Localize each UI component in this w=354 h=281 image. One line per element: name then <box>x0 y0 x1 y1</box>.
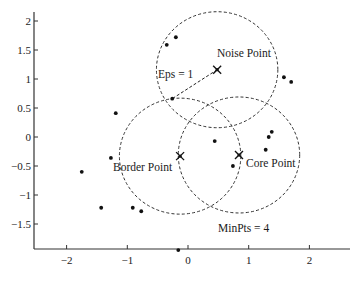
y-tick-label: −0.5 <box>11 160 31 172</box>
y-tick-label: 2 <box>26 15 32 27</box>
axes: −2−1012 21.510.50−0.5−1−1.5 <box>11 12 350 266</box>
border-point-label: Border Point <box>113 161 173 173</box>
data-point <box>264 148 268 152</box>
x-marker-noise <box>213 66 221 74</box>
data-point <box>231 164 235 168</box>
y-tick-label: 0 <box>26 131 32 143</box>
x-tick-label: 0 <box>185 254 191 266</box>
x-marker-border <box>176 152 184 160</box>
core-point-label: Core Point <box>246 157 296 169</box>
eps-circles <box>119 12 299 214</box>
dbscan-diagram: −2−1012 21.510.50−0.5−1−1.5 Eps = 1 Nois… <box>0 0 354 281</box>
data-point <box>270 130 274 134</box>
x-marker-core <box>235 151 243 159</box>
y-tick-label: −1 <box>19 189 31 201</box>
data-point <box>267 135 271 139</box>
data-point <box>170 97 174 101</box>
y-tick-label: 1.5 <box>17 44 31 56</box>
data-point <box>165 43 169 47</box>
x-tick-label: 1 <box>246 254 252 266</box>
data-point <box>289 80 293 84</box>
data-point <box>99 206 103 210</box>
data-point <box>213 139 217 143</box>
y-tick-label: 0.5 <box>17 102 31 114</box>
data-point <box>114 111 118 115</box>
x-ticks: −2−1012 <box>61 245 312 266</box>
eps-label: Eps = 1 <box>158 68 193 81</box>
y-tick-label: 1 <box>26 73 32 85</box>
minpts-label: MinPts = 4 <box>218 222 269 234</box>
data-point <box>139 209 143 213</box>
data-point <box>109 156 113 160</box>
noise-point-label: Noise Point <box>217 47 272 59</box>
data-point <box>282 75 286 79</box>
y-tick-label: −1.5 <box>11 218 31 230</box>
data-point <box>176 248 180 252</box>
data-point <box>131 206 135 210</box>
data-point <box>174 35 178 39</box>
x-tick-label: 2 <box>307 254 313 266</box>
x-tick-label: −1 <box>121 254 133 266</box>
data-point <box>80 170 84 174</box>
x-tick-label: −2 <box>61 254 73 266</box>
